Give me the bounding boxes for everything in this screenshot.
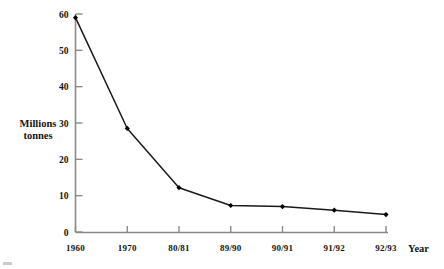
line-chart: 0102030405060 1960197080/8189/9090/9191/… bbox=[0, 0, 444, 269]
x-axis-ticks bbox=[76, 226, 387, 232]
y-axis-title-line1: Millions bbox=[20, 118, 57, 129]
y-axis-tick-label: 20 bbox=[59, 155, 69, 165]
x-axis-tick-labels: 1960197080/8189/9090/9191/9292/93 bbox=[66, 243, 397, 253]
data-point-marker bbox=[280, 204, 285, 209]
y-axis-tick-label: 60 bbox=[59, 10, 69, 20]
y-axis-tick-label: 50 bbox=[59, 46, 69, 56]
x-axis-tick-label: 90/91 bbox=[272, 243, 294, 253]
data-point-marker bbox=[228, 203, 233, 208]
x-axis-title: Year bbox=[408, 243, 429, 254]
data-point-marker bbox=[332, 208, 337, 213]
x-axis-tick-label: 1960 bbox=[66, 243, 85, 253]
y-axis-ticks bbox=[76, 14, 83, 232]
data-point-markers bbox=[73, 15, 389, 217]
y-axis-tick-labels: 0102030405060 bbox=[59, 10, 69, 238]
y-axis-tick-label: 10 bbox=[59, 191, 69, 201]
scan-artifact bbox=[3, 262, 12, 265]
data-series-line bbox=[76, 18, 387, 215]
data-point-marker bbox=[73, 15, 78, 20]
x-axis-tick-label: 1970 bbox=[118, 243, 137, 253]
x-axis-tick-label: 80/81 bbox=[168, 243, 190, 253]
y-axis-tick-label: 0 bbox=[64, 228, 69, 238]
x-axis-tick-label: 91/92 bbox=[323, 243, 345, 253]
chart-svg: 0102030405060 1960197080/8189/9090/9191/… bbox=[0, 0, 444, 269]
y-axis-tick-label: 30 bbox=[59, 119, 69, 129]
x-axis-tick-label: 92/93 bbox=[375, 243, 397, 253]
y-axis-tick-label: 40 bbox=[59, 82, 69, 92]
y-axis-title-line2: tonnes bbox=[23, 130, 52, 141]
data-point-marker bbox=[383, 212, 388, 217]
x-axis-tick-label: 89/90 bbox=[220, 243, 242, 253]
